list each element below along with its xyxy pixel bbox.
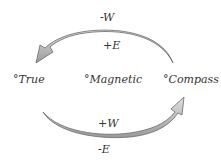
top-arrow-label-below: +E [103, 39, 120, 52]
bottom-arrow-label-below: -E [98, 143, 110, 156]
bottom-arrow-label-above: +W [98, 117, 119, 130]
top-arrow-label-above: -W [100, 11, 114, 24]
node-true: °True [13, 73, 45, 86]
compass-conversion-diagram: -W +E °True °Magnetic °Compass +W -E [0, 0, 221, 166]
node-compass: °Compass [163, 73, 219, 86]
node-magnetic: °Magnetic [84, 73, 142, 86]
